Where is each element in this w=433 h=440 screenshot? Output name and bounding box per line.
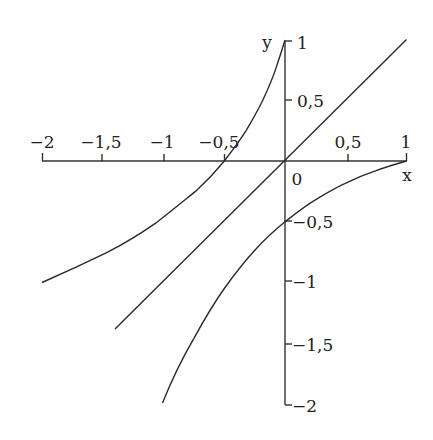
x-tick-label: −0,5 bbox=[198, 132, 239, 152]
y-tick-label: −1 bbox=[292, 272, 317, 292]
x-tick-label: −1 bbox=[149, 132, 174, 152]
y-axis-label: y bbox=[261, 32, 272, 52]
y-tick-label: 1 bbox=[297, 33, 308, 53]
y-axis bbox=[285, 41, 292, 405]
x-axis-label: x bbox=[402, 165, 412, 185]
y-tick-label: −1,5 bbox=[292, 335, 333, 355]
origin-label: 0 bbox=[292, 169, 303, 189]
x-tick-label: −1,5 bbox=[80, 132, 121, 152]
y-tick-label: −2 bbox=[292, 396, 317, 416]
x-tick-label: 0,5 bbox=[334, 132, 361, 152]
x-tick-label: −2 bbox=[29, 132, 54, 152]
y-tick-label: −0,5 bbox=[292, 212, 333, 232]
x-tick-label: 1 bbox=[401, 132, 412, 152]
line-y-equals-x bbox=[115, 40, 407, 330]
function-graph: −2 −1,5 −1 −0,5 0,5 1 0 x y 1 0,5 −0,5 −… bbox=[0, 0, 433, 440]
y-tick-label: 0,5 bbox=[297, 91, 324, 111]
